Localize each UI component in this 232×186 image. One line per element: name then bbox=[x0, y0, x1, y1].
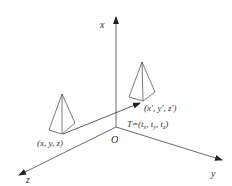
original-pyramid bbox=[49, 94, 75, 134]
origin-label: O bbox=[111, 134, 118, 145]
original-point-label: (x, y, z) bbox=[37, 138, 63, 148]
translated-point-label: (x′, y′, z′) bbox=[144, 103, 176, 113]
coordinate-diagram: x y z O (x, y, z) (x′, y′, z′) T=(tx, ty… bbox=[0, 0, 232, 186]
z-axis bbox=[19, 127, 116, 175]
y-axis bbox=[116, 127, 222, 160]
translation-prefix: T=( bbox=[127, 119, 142, 129]
translated-pyramid bbox=[129, 62, 155, 101]
x-axis-label: x bbox=[99, 19, 105, 30]
y-axis-label: y bbox=[210, 168, 216, 179]
translation-label: T=(tx, ty, tz) bbox=[127, 119, 168, 130]
z-axis-label: z bbox=[25, 174, 30, 185]
